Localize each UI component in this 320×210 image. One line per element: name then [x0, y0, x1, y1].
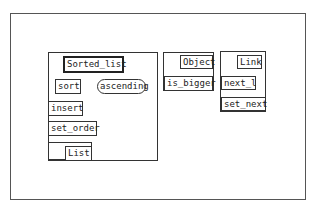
class-title-sorted-list[interactable]: Sorted_list — [63, 56, 124, 73]
feature-is-bigger[interactable]: is_bigger — [164, 76, 213, 91]
feature-set-next[interactable]: set_next — [221, 97, 266, 112]
class-title-link[interactable]: Link — [237, 55, 262, 69]
attribute-ascending[interactable]: ascending — [97, 79, 146, 94]
class-title-object[interactable]: Object — [180, 55, 213, 69]
parent-class-list[interactable]: List — [65, 146, 92, 161]
feature-sort[interactable]: sort — [55, 79, 81, 94]
feature-insert[interactable]: insert — [48, 101, 83, 116]
feature-next-l[interactable]: next_l — [221, 76, 256, 90]
feature-set-order[interactable]: set_order — [48, 121, 97, 136]
